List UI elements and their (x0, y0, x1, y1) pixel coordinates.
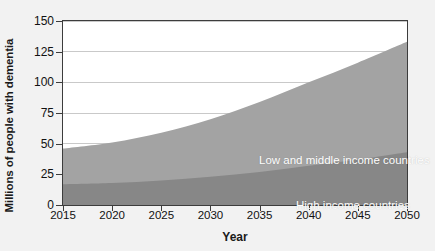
x-axis-title: Year (62, 230, 408, 244)
area-chart-svg (63, 21, 407, 205)
x-tick-mark-2030 (210, 206, 211, 211)
y-tick-label-100: 100 (14, 76, 54, 88)
x-tick-mark-2020 (112, 206, 113, 211)
plot-area: Low and middle income countries High inc… (62, 20, 408, 206)
series-label-low-middle-income: Low and middle income countries (259, 154, 430, 166)
y-tick-label-75: 75 (14, 107, 54, 119)
chart-figure: Millions of people with dementia 0255075… (0, 0, 435, 251)
y-axis-title: Millions of people with dementia (0, 0, 18, 251)
x-tick-mark-2035 (260, 206, 261, 211)
y-tick-label-25: 25 (14, 168, 54, 180)
x-tick-mark-2015 (63, 206, 64, 211)
x-tick-mark-2025 (161, 206, 162, 211)
series-bands (63, 42, 407, 205)
y-tick-label-125: 125 (14, 46, 54, 58)
y-tick-label-50: 50 (14, 138, 54, 150)
y-tick-label-150: 150 (14, 15, 54, 27)
series-label-high-income: High income countries (296, 199, 410, 211)
